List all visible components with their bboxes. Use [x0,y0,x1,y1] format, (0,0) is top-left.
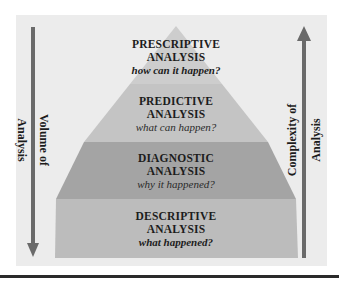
tier-subtitle: ANALYSIS [116,51,236,64]
tier-title: PRESCRIPTIVE [116,38,236,51]
tier-subtitle: ANALYSIS [116,223,236,236]
tier-title: PREDICTIVE [116,95,236,108]
tier-question: how can it happen? [116,64,236,77]
volume-label-line1: Volume of [38,100,50,180]
tier-question: why it happened? [116,178,236,191]
tier-title: DIAGNOSTIC [116,152,236,165]
tier-subtitle: ANALYSIS [116,108,236,121]
bottom-rule [0,275,339,278]
complexity-label-line2: Analysis [310,90,322,190]
tier-subtitle: ANALYSIS [116,165,236,178]
tier-diagnostic: DIAGNOSTIC ANALYSIS why it happened? [116,152,236,191]
tier-question: what happened? [116,236,236,249]
tier-question: what can happen? [116,121,236,134]
tier-title: DESCRIPTIVE [116,210,236,223]
complexity-label-line1: Complexity of [286,90,298,190]
tier-predictive: PREDICTIVE ANALYSIS what can happen? [116,95,236,134]
volume-label-line2: Analysis [16,100,28,180]
tier-descriptive: DESCRIPTIVE ANALYSIS what happened? [116,210,236,249]
tier-prescriptive: PRESCRIPTIVE ANALYSIS how can it happen? [116,38,236,77]
